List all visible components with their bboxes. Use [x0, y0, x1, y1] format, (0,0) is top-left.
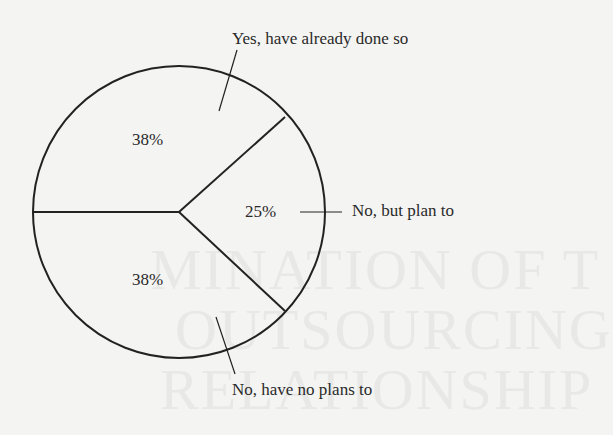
pct-noplan: 38% [132, 270, 163, 290]
leader-line-yes [219, 50, 237, 111]
label-yes: Yes, have already done so [232, 29, 408, 49]
slice-divider-bottom [179, 212, 285, 311]
pct-yes: 38% [132, 130, 163, 150]
label-noplan: No, have no plans to [232, 380, 372, 400]
label-plan: No, but plan to [352, 201, 454, 221]
slice-divider-top [179, 117, 285, 212]
leader-line-noplan [216, 317, 235, 374]
pct-plan: 25% [245, 202, 276, 222]
